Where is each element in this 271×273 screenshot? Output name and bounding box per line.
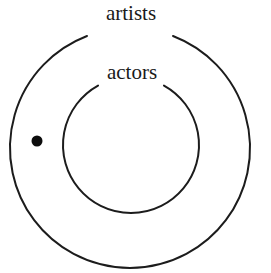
element-point-dot[interactable] — [32, 136, 43, 147]
euler-diagram-svg: artists actors — [0, 0, 271, 273]
set-circle-actors[interactable] — [63, 86, 199, 213]
set-label-artists: artists — [106, 1, 156, 25]
set-label-actors: actors — [107, 60, 157, 84]
euler-diagram-canvas: artists actors — [0, 0, 271, 273]
